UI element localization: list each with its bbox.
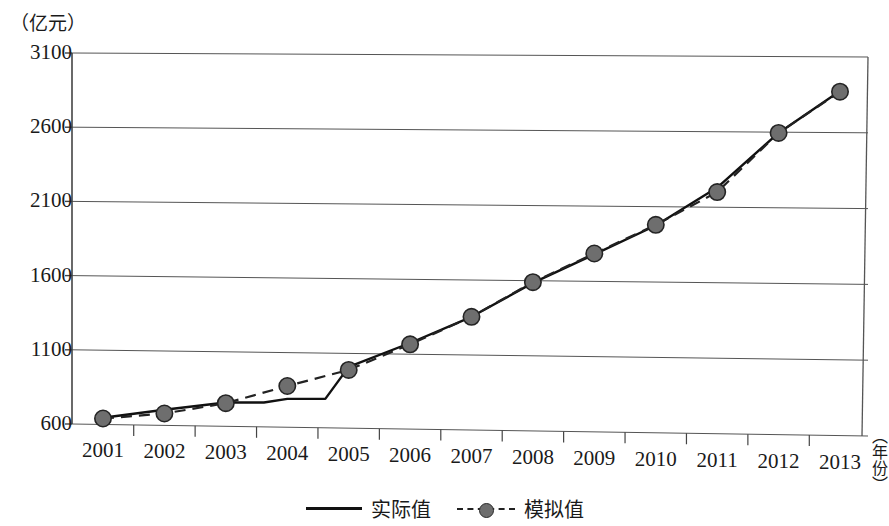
x-axis-tick-label: 2011: [697, 449, 738, 471]
y-axis-tick-label: 600: [10, 413, 72, 434]
x-axis-tick-label: 2003: [205, 441, 247, 463]
series-markers-simulated: [95, 84, 848, 427]
line-chart: （亿元） （年份） 60011001600210026003100 200120…: [0, 0, 889, 526]
x-axis-tick-label: 2006: [389, 444, 431, 466]
y-axis-tick-label: 2600: [10, 116, 72, 137]
y-axis-tick-label: 3100: [10, 42, 72, 63]
x-axis-tick-label: 2013: [819, 451, 861, 473]
legend-label-simulated: 模拟值: [524, 494, 584, 523]
x-axis-tick-label: 2007: [451, 445, 493, 467]
dashed-line-marker-swatch-icon: [457, 501, 515, 517]
x-axis-tick-label: 2002: [143, 440, 185, 462]
x-axis-tick-label: 2010: [635, 448, 677, 470]
x-axis-tick-label: 2005: [328, 443, 370, 465]
legend-label-actual: 实际值: [371, 494, 431, 523]
legend-item-actual: 实际值: [306, 494, 431, 523]
x-axis-tick-label: 2001: [82, 439, 124, 461]
x-axis-tick-label: 2004: [266, 442, 308, 464]
y-axis-tick-labels: 60011001600210026003100: [0, 0, 72, 526]
y-axis-tick-label: 1100: [10, 339, 72, 360]
plot-area: [0, 0, 889, 526]
y-axis-tick-label: 2100: [10, 190, 72, 211]
series-line-actual: [103, 91, 840, 418]
x-axis-tick-label: 2009: [573, 447, 615, 469]
y-axis-tick-label: 1600: [10, 265, 72, 286]
x-axis-tick-label: 2012: [758, 450, 800, 472]
gridlines: [72, 53, 868, 436]
x-axis-tick-label: 2008: [512, 446, 554, 468]
legend-item-simulated: 模拟值: [457, 494, 584, 523]
series-line-simulated: [103, 92, 840, 419]
legend: 实际值 模拟值: [0, 494, 889, 523]
x-axis-unit-label: （年份）: [862, 428, 888, 492]
solid-line-swatch-icon: [306, 507, 362, 510]
axis-frame: [72, 53, 868, 436]
